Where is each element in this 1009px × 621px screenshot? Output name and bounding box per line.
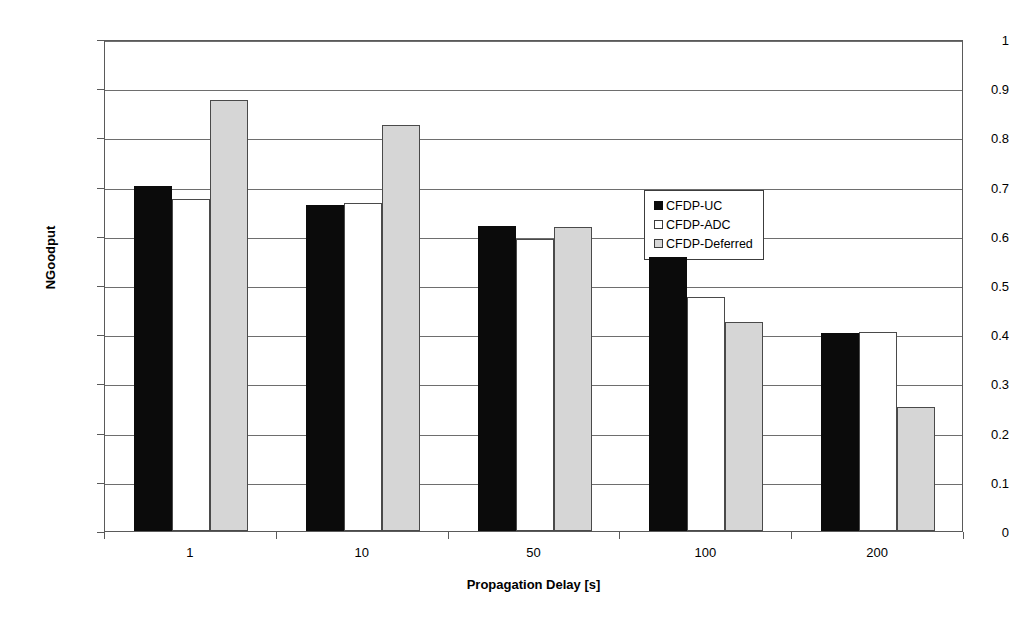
- gridline: [105, 90, 962, 91]
- y-tick-mark: [97, 483, 104, 484]
- bar-cfdp-adc-200: [859, 332, 897, 531]
- bar-cfdp-adc-100: [687, 297, 725, 531]
- x-tick-label: 1: [150, 545, 230, 560]
- y-tick-mark: [97, 335, 104, 336]
- bar-cfdp-adc-50: [516, 239, 554, 531]
- x-tick-mark: [448, 532, 449, 539]
- bar-cfdp-adc-1: [172, 199, 210, 531]
- bar-cfdp-deferred-100: [725, 322, 763, 531]
- chart-figure: NGoodput 00.10.20.30.40.50.60.70.80.91 1…: [0, 0, 1009, 621]
- y-tick-mark: [97, 40, 104, 41]
- x-tick-label: 10: [322, 545, 402, 560]
- legend-swatch-icon: [654, 239, 663, 248]
- legend-item-cfdp-adc: CFDP-ADC: [654, 215, 753, 234]
- x-tick-label: 100: [665, 545, 745, 560]
- y-tick-mark: [97, 532, 104, 533]
- bar-cfdp-deferred-10: [382, 125, 420, 531]
- y-tick-mark: [97, 89, 104, 90]
- y-tick-mark: [97, 434, 104, 435]
- bar-cfdp-uc-50: [478, 226, 516, 531]
- y-tick-mark: [97, 188, 104, 189]
- y-tick-mark: [97, 138, 104, 139]
- y-tick-mark: [97, 384, 104, 385]
- x-tick-mark: [619, 532, 620, 539]
- x-tick-mark: [791, 532, 792, 539]
- bar-cfdp-uc-1: [134, 186, 172, 531]
- gridline: [105, 41, 962, 42]
- legend-label: CFDP-Deferred: [666, 237, 753, 251]
- x-tick-mark: [963, 532, 964, 539]
- bar-cfdp-uc-10: [306, 205, 344, 531]
- y-tick-mark: [97, 286, 104, 287]
- bar-cfdp-adc-10: [344, 203, 382, 531]
- legend-label: CFDP-ADC: [666, 218, 731, 232]
- bar-cfdp-uc-100: [649, 257, 687, 531]
- legend-swatch-icon: [654, 201, 663, 210]
- x-axis-title: Propagation Delay [s]: [104, 577, 963, 592]
- plot-area: [104, 40, 963, 532]
- legend-label: CFDP-UC: [666, 199, 722, 213]
- y-axis-title: NGoodput: [43, 198, 58, 318]
- legend-item-cfdp-deferred: CFDP-Deferred: [654, 234, 753, 253]
- bar-cfdp-uc-200: [821, 333, 859, 531]
- legend-swatch-icon: [654, 220, 663, 229]
- bar-cfdp-deferred-200: [897, 407, 935, 531]
- x-tick-mark: [276, 532, 277, 539]
- x-tick-label: 50: [494, 545, 574, 560]
- y-tick-mark: [97, 237, 104, 238]
- x-tick-label: 200: [837, 545, 917, 560]
- chart-legend: CFDP-UCCFDP-ADCCFDP-Deferred: [644, 190, 764, 260]
- legend-item-cfdp-uc: CFDP-UC: [654, 196, 753, 215]
- bar-cfdp-deferred-50: [554, 227, 592, 531]
- x-tick-mark: [104, 532, 105, 539]
- bar-cfdp-deferred-1: [210, 100, 248, 531]
